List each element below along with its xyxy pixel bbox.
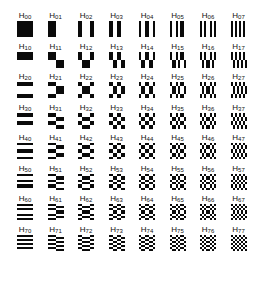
basis-cell-37: H37 xyxy=(224,104,254,134)
basis-pattern xyxy=(109,204,125,220)
basis-pattern xyxy=(109,82,125,98)
basis-pattern xyxy=(139,21,155,37)
basis-label: H50 xyxy=(10,165,40,174)
basis-pattern xyxy=(17,204,33,220)
basis-label: H66 xyxy=(193,195,223,204)
basis-cell-71: H71 xyxy=(41,226,71,256)
basis-pattern xyxy=(139,174,155,190)
basis-pattern xyxy=(200,204,216,220)
basis-label: H00 xyxy=(10,12,40,21)
basis-label: H01 xyxy=(41,12,71,21)
basis-cell-66: H66 xyxy=(193,195,223,225)
basis-label: H12 xyxy=(71,43,101,52)
basis-label: H33 xyxy=(102,104,132,113)
basis-cell-14: H14 xyxy=(132,43,162,73)
basis-label: H52 xyxy=(71,165,101,174)
basis-cell-55: H55 xyxy=(163,165,193,195)
basis-label: H40 xyxy=(10,134,40,143)
basis-cell-64: H64 xyxy=(132,195,162,225)
basis-pattern xyxy=(139,113,155,129)
basis-label: H76 xyxy=(193,226,223,235)
basis-cell-60: H60 xyxy=(10,195,40,225)
basis-label: H51 xyxy=(41,165,71,174)
basis-cell-15: H15 xyxy=(163,43,193,73)
basis-label: H27 xyxy=(224,73,254,82)
basis-cell-73: H73 xyxy=(102,226,132,256)
basis-pattern xyxy=(231,82,247,98)
basis-label: H63 xyxy=(102,195,132,204)
basis-label: H75 xyxy=(163,226,193,235)
basis-pattern xyxy=(17,113,33,129)
basis-pattern xyxy=(48,21,64,37)
basis-label: H35 xyxy=(163,104,193,113)
basis-pattern xyxy=(109,174,125,190)
basis-pattern xyxy=(170,113,186,129)
basis-pattern xyxy=(78,113,94,129)
basis-pattern xyxy=(170,235,186,251)
basis-cell-70: H70 xyxy=(10,226,40,256)
basis-pattern xyxy=(48,204,64,220)
basis-label: H72 xyxy=(71,226,101,235)
basis-label: H13 xyxy=(102,43,132,52)
basis-cell-74: H74 xyxy=(132,226,162,256)
basis-label: H43 xyxy=(102,134,132,143)
basis-pattern xyxy=(17,143,33,159)
basis-label: H64 xyxy=(132,195,162,204)
basis-pattern xyxy=(170,143,186,159)
basis-pattern xyxy=(139,52,155,68)
basis-cell-32: H32 xyxy=(71,104,101,134)
basis-label: H26 xyxy=(193,73,223,82)
basis-pattern xyxy=(200,174,216,190)
basis-label: H53 xyxy=(102,165,132,174)
basis-label: H70 xyxy=(10,226,40,235)
basis-pattern xyxy=(78,82,94,98)
basis-label: H02 xyxy=(71,12,101,21)
walsh-hadamard-basis-figure: H00H01H02H03H04H05H06H07H10H11H12H13H14H… xyxy=(0,0,262,282)
basis-pattern xyxy=(200,235,216,251)
basis-pattern xyxy=(17,52,33,68)
basis-label: H16 xyxy=(193,43,223,52)
basis-pattern xyxy=(17,21,33,37)
basis-cell-24: H24 xyxy=(132,73,162,103)
basis-label: H67 xyxy=(224,195,254,204)
basis-label: H37 xyxy=(224,104,254,113)
basis-cell-22: H22 xyxy=(71,73,101,103)
basis-cell-42: H42 xyxy=(71,134,101,164)
basis-label: H17 xyxy=(224,43,254,52)
basis-cell-06: H06 xyxy=(193,12,223,42)
basis-label: H04 xyxy=(132,12,162,21)
basis-pattern xyxy=(78,21,94,37)
basis-label: H03 xyxy=(102,12,132,21)
basis-label: H65 xyxy=(163,195,193,204)
basis-cell-46: H46 xyxy=(193,134,223,164)
basis-pattern xyxy=(200,52,216,68)
basis-pattern xyxy=(109,143,125,159)
basis-label: H56 xyxy=(193,165,223,174)
basis-label: H74 xyxy=(132,226,162,235)
basis-label: H22 xyxy=(71,73,101,82)
basis-cell-43: H43 xyxy=(102,134,132,164)
basis-cell-25: H25 xyxy=(163,73,193,103)
basis-cell-61: H61 xyxy=(41,195,71,225)
basis-cell-53: H53 xyxy=(102,165,132,195)
basis-label: H45 xyxy=(163,134,193,143)
basis-label: H21 xyxy=(41,73,71,82)
basis-cell-57: H57 xyxy=(224,165,254,195)
basis-cell-04: H04 xyxy=(132,12,162,42)
basis-pattern xyxy=(109,21,125,37)
basis-cell-40: H40 xyxy=(10,134,40,164)
basis-pattern xyxy=(200,82,216,98)
basis-cell-63: H63 xyxy=(102,195,132,225)
basis-label: H20 xyxy=(10,73,40,82)
basis-cell-65: H65 xyxy=(163,195,193,225)
basis-pattern xyxy=(109,52,125,68)
basis-label: H05 xyxy=(163,12,193,21)
basis-pattern xyxy=(231,52,247,68)
basis-pattern xyxy=(48,174,64,190)
basis-label: H32 xyxy=(71,104,101,113)
basis-label: H11 xyxy=(41,43,71,52)
basis-cell-54: H54 xyxy=(132,165,162,195)
basis-label: H57 xyxy=(224,165,254,174)
basis-pattern xyxy=(170,82,186,98)
basis-cell-16: H16 xyxy=(193,43,223,73)
